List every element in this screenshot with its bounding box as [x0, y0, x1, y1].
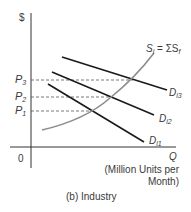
y-axis-label: $ [19, 13, 25, 23]
demand-curve-di1 [48, 84, 144, 142]
price-label-p1: P1 [15, 105, 26, 117]
x-axis-label: Q [169, 152, 177, 162]
supply-label: Si = ΣSf [146, 44, 180, 55]
price-label-p3: P3 [15, 74, 26, 86]
diagram-caption: (b) Industry [66, 192, 117, 202]
demand-label-di1: Di1 [149, 136, 162, 147]
price-label-p2: P2 [15, 91, 26, 103]
demand-label-di3: Di3 [169, 88, 182, 99]
x-axis-unit-line1: (Million Units per [105, 165, 179, 175]
demand-curve-di3 [62, 57, 167, 90]
demand-curve-di2 [52, 72, 154, 115]
origin-label: 0 [18, 154, 24, 164]
demand-label-di2: Di2 [159, 114, 172, 125]
x-axis-unit-line2: Month) [148, 177, 179, 187]
